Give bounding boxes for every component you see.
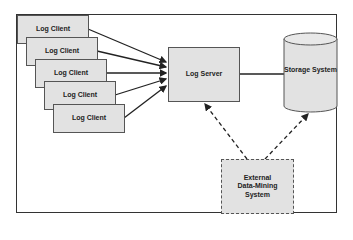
log-client-label: Log Client [63, 91, 97, 99]
log-client-label: Log Client [36, 25, 70, 33]
external-label-line2: Data-Mining [237, 182, 277, 190]
storage-system-label: Storage System [284, 66, 337, 73]
log-server-label: Log Server [186, 70, 223, 78]
log-client-label: Log Client [54, 69, 88, 77]
log-client-5: Log Client [53, 104, 125, 133]
external-label-line1: External [244, 174, 272, 182]
log-server: Log Server [168, 47, 240, 102]
external-data-mining-system: External Data-Mining System [221, 159, 294, 214]
log-client-label: Log Client [45, 47, 79, 55]
external-label-line3: System [245, 191, 270, 199]
log-client-label: Log Client [72, 114, 106, 122]
